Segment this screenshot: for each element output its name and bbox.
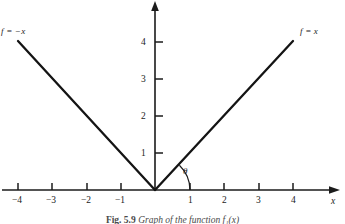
x-tick-label-1: 1 bbox=[188, 196, 193, 206]
label-f-equals-minus-x: f = −x bbox=[1, 27, 25, 36]
y-axis-arrowhead bbox=[151, 1, 159, 11]
y-tick-label-4: 4 bbox=[141, 38, 146, 48]
y-tick-label-3: 3 bbox=[141, 75, 146, 85]
x-axis-label: x bbox=[331, 197, 335, 207]
x-tick-label--3: −3 bbox=[46, 196, 56, 206]
angle-theta-label: θ bbox=[183, 167, 187, 176]
x-tick-label-2: 2 bbox=[222, 196, 227, 206]
x-tick-label-3: 3 bbox=[256, 196, 261, 206]
figure-caption-text: Graph of the function f₁(x) bbox=[138, 215, 239, 224]
figure-caption-prefix: Fig. 5.9 bbox=[106, 215, 136, 224]
x-tick-label--2: −2 bbox=[81, 196, 91, 206]
y-tick-label-2: 2 bbox=[141, 112, 146, 122]
curve-f-equals-x bbox=[155, 41, 293, 190]
x-tick-label--1: −1 bbox=[115, 196, 125, 206]
x-axis-arrowhead bbox=[329, 186, 340, 194]
y-tick-label-1: 1 bbox=[141, 149, 146, 159]
figure-container: −4 −3 −2 −1 1 2 3 4 1 2 3 4 x f = −x f =… bbox=[0, 0, 345, 224]
plot-canvas bbox=[0, 0, 345, 224]
figure-caption: Fig. 5.9 Graph of the function f₁(x) bbox=[0, 215, 345, 224]
curve-f-equals-minus-x bbox=[18, 41, 155, 190]
label-f-equals-x: f = x bbox=[300, 27, 318, 36]
x-tick-label-4: 4 bbox=[291, 196, 296, 206]
y-tick-marks bbox=[155, 42, 163, 153]
x-tick-label--4: −4 bbox=[12, 196, 22, 206]
